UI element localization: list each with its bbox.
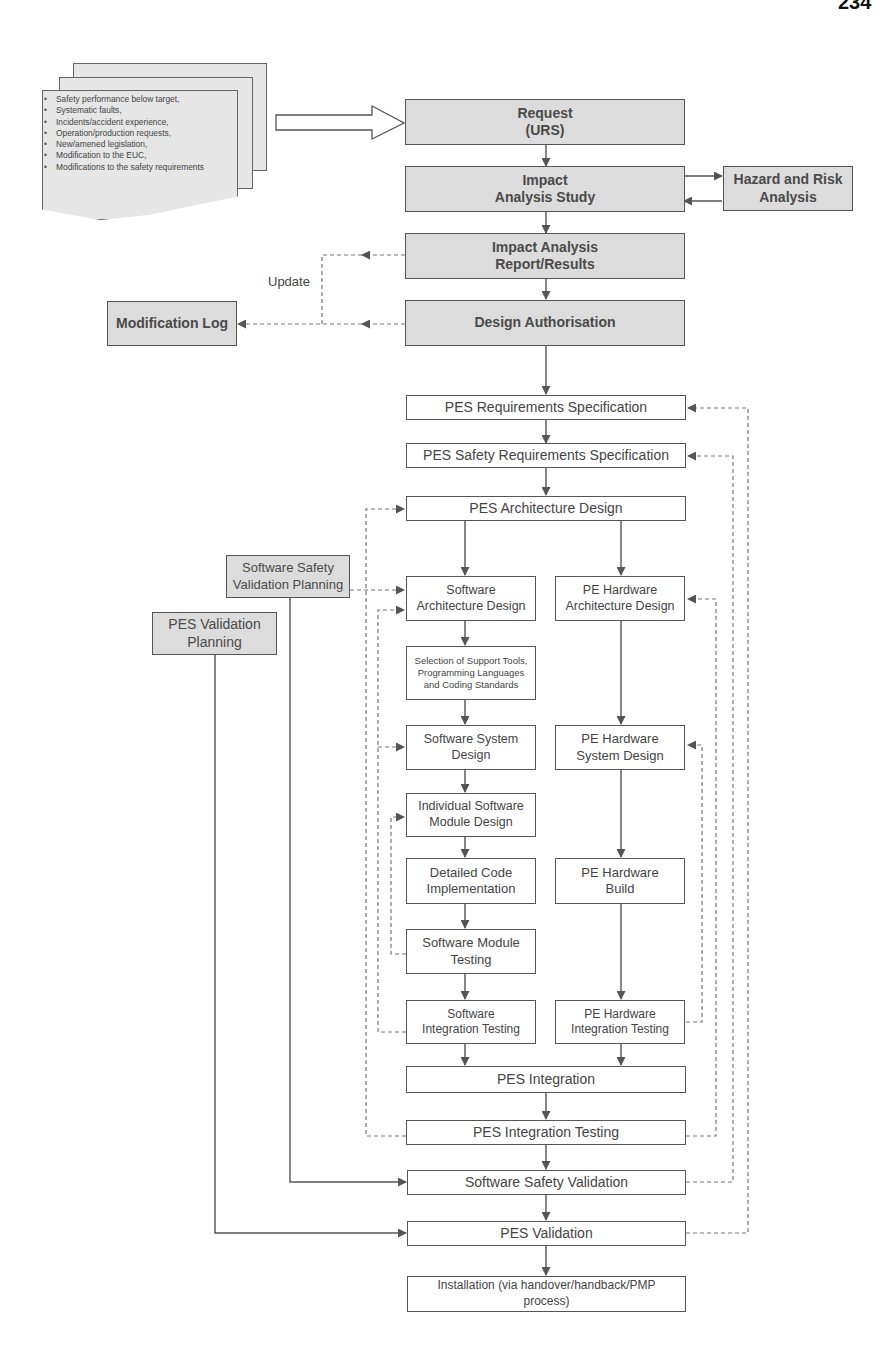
- pes-architecture-design-box: PES Architecture Design: [406, 496, 686, 521]
- pes-validation-planning-box: PES Validation Planning: [152, 612, 277, 655]
- support-tools-selection-box: Selection of Support Tools, Programming …: [406, 646, 536, 700]
- detailed-code-implementation-box: Detailed Code Implementation: [406, 858, 536, 904]
- update-label: Update: [268, 274, 310, 289]
- impact-analysis-report-box: Impact Analysis Report/Results: [405, 233, 685, 279]
- design-authorisation-box: Design Authorisation: [405, 300, 685, 346]
- software-safety-validation-planning-box: Software Safety Validation Planning: [226, 555, 350, 598]
- pes-safety-requirements-spec-box: PES Safety Requirements Specification: [406, 443, 686, 468]
- impact-analysis-study-box: Impact Analysis Study: [405, 166, 685, 212]
- software-integration-testing-box: Software Integration Testing: [406, 1000, 536, 1044]
- software-module-testing-box: Software Module Testing: [406, 929, 536, 974]
- software-architecture-design-box: Software Architecture Design: [406, 576, 536, 621]
- modification-log-box: Modification Log: [107, 301, 237, 346]
- pes-validation-box: PES Validation: [407, 1221, 686, 1246]
- software-safety-validation-box: Software Safety Validation: [407, 1170, 686, 1195]
- pe-hardware-integration-testing-box: PE Hardware Integration Testing: [555, 1000, 685, 1044]
- pe-hardware-build-box: PE Hardware Build: [555, 858, 685, 904]
- pes-integration-box: PES Integration: [406, 1066, 686, 1093]
- installation-box: Installation (via handover/handback/PMP …: [407, 1276, 686, 1312]
- pes-requirements-spec-box: PES Requirements Specification: [406, 395, 686, 420]
- software-system-design-box: Software System Design: [406, 725, 536, 770]
- request-box: Request (URS): [405, 99, 685, 145]
- hazard-risk-analysis-box: Hazard and Risk Analysis: [723, 166, 853, 211]
- pes-integration-testing-box: PES Integration Testing: [406, 1120, 686, 1145]
- pe-hardware-architecture-design-box: PE Hardware Architecture Design: [555, 576, 685, 621]
- pe-hardware-system-design-box: PE Hardware System Design: [555, 725, 685, 770]
- individual-software-module-design-box: Individual Software Module Design: [406, 793, 536, 837]
